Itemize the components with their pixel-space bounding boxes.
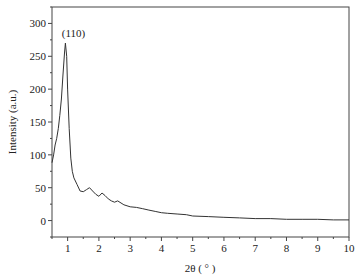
- y-axis-label: Intensity (a.u.): [6, 89, 19, 154]
- y-tick-label: 250: [30, 50, 47, 62]
- x-tick-label: 1: [65, 242, 71, 254]
- data-line: [52, 43, 349, 220]
- y-axis-ticks: 050100150200250300: [30, 7, 53, 237]
- y-tick-label: 150: [30, 116, 47, 128]
- y-tick-label: 100: [30, 149, 47, 161]
- x-tick-label: 9: [315, 242, 321, 254]
- x-tick-label: 7: [252, 242, 258, 254]
- x-tick-label: 10: [344, 242, 356, 254]
- y-tick-label: 300: [30, 17, 47, 29]
- x-tick-label: 8: [284, 242, 290, 254]
- xrd-chart: 12345678910 050100150200250300 (110) 2θ …: [0, 0, 361, 279]
- y-tick-label: 0: [41, 215, 47, 227]
- x-tick-label: 5: [190, 242, 196, 254]
- x-axis-ticks: 12345678910: [52, 237, 355, 254]
- y-tick-label: 200: [30, 83, 47, 95]
- y-tick-label: 50: [35, 182, 47, 194]
- x-tick-label: 2: [96, 242, 102, 254]
- peak-annotation: (110): [62, 27, 86, 40]
- x-axis-label: 2θ ( ° ): [185, 262, 216, 275]
- x-tick-label: 6: [221, 242, 227, 254]
- x-tick-label: 3: [127, 242, 133, 254]
- x-tick-label: 4: [159, 242, 165, 254]
- plot-frame: [52, 7, 349, 237]
